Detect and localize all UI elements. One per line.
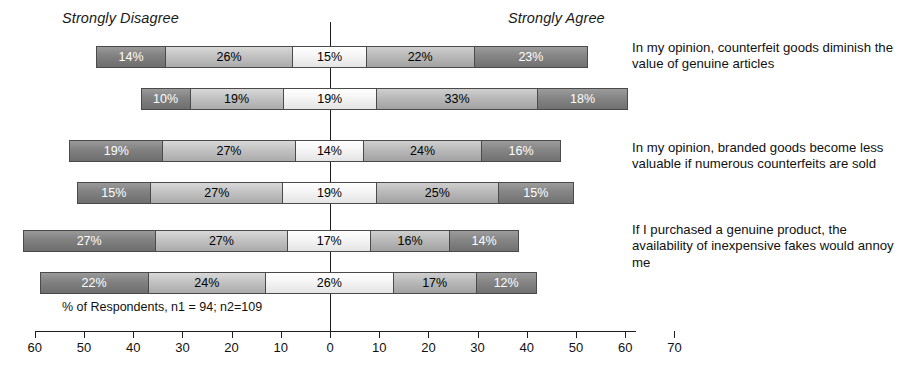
x-axis-tick-label: 20 — [224, 340, 238, 355]
x-axis-tick — [674, 331, 675, 338]
plot-area: 14%26%15%22%23%10%19%19%33%18%19%27%14%2… — [0, 0, 650, 379]
stacked-bar: 15%27%19%25%15% — [77, 182, 574, 204]
bar-segment-value: 14% — [472, 235, 497, 248]
bar-segment: 19% — [284, 89, 377, 109]
x-axis-tick — [428, 331, 429, 338]
bar-segment-value: 18% — [570, 93, 595, 106]
bar-segment: 24% — [149, 273, 267, 293]
stacked-bar: 14%26%15%22%23% — [96, 46, 588, 68]
bar-segment: 10% — [142, 89, 191, 109]
stacked-bar: 10%19%19%33%18% — [141, 88, 628, 110]
bar-segment: 16% — [371, 231, 449, 251]
bar-segment: 27% — [163, 141, 295, 161]
bar-segment-value: 26% — [217, 51, 242, 64]
statement-label-0: In my opinion, counterfeit goods diminis… — [632, 40, 894, 73]
bar-segment: 19% — [191, 89, 284, 109]
x-axis-line — [35, 331, 636, 332]
bar-segment: 33% — [377, 89, 539, 109]
bar-segment-value: 27% — [216, 145, 241, 158]
bar-segment-value: 17% — [422, 277, 447, 290]
bar-segment: 22% — [367, 47, 475, 67]
x-axis-tick — [478, 331, 479, 338]
bar-segment-value: 33% — [445, 93, 470, 106]
statement-label-1: In my opinion, branded goods become less… — [632, 140, 894, 173]
x-axis-tick — [379, 331, 380, 338]
x-axis-tick-label: 60 — [28, 340, 42, 355]
x-axis-tick-label: 0 — [326, 340, 333, 355]
bar-segment-value: 24% — [194, 277, 219, 290]
x-axis-tick-label: 10 — [372, 340, 386, 355]
x-axis-tick — [527, 331, 528, 338]
bar-segment-value: 14% — [317, 145, 342, 158]
bar-segment-value: 16% — [398, 235, 423, 248]
bar-segment-value: 14% — [119, 51, 144, 64]
x-axis-tick-label: 30 — [175, 340, 189, 355]
stacked-bar: 27%27%17%16%14% — [23, 230, 520, 252]
bar-segment: 26% — [266, 273, 393, 293]
bar-segment-value: 19% — [317, 93, 342, 106]
stacked-bar: 22%24%26%17%12% — [40, 272, 537, 294]
bar-segment-value: 27% — [209, 235, 234, 248]
statement-label-2: If I purchased a genuine product, the av… — [632, 222, 894, 271]
bar-segment-value: 19% — [104, 145, 129, 158]
bar-segment: 14% — [97, 47, 166, 67]
bar-segment-value: 25% — [425, 187, 450, 200]
bar-segment-value: 15% — [317, 51, 342, 64]
bar-segment: 23% — [475, 47, 588, 67]
x-axis-tick — [330, 331, 331, 338]
bar-segment-value: 15% — [101, 187, 126, 200]
x-axis-tick — [576, 331, 577, 338]
bar-segment: 17% — [394, 273, 477, 293]
x-axis-tick-label: 40 — [520, 340, 534, 355]
bar-segment: 27% — [24, 231, 156, 251]
x-axis-tick-label: 70 — [667, 340, 681, 355]
bar-segment: 15% — [78, 183, 152, 203]
x-axis-tick-label: 50 — [569, 340, 583, 355]
bar-segment-value: 10% — [153, 93, 178, 106]
bar-segment: 14% — [296, 141, 365, 161]
bar-segment: 15% — [499, 183, 573, 203]
bar-segment-value: 27% — [204, 187, 229, 200]
x-axis-tick-label: 20 — [421, 340, 435, 355]
bar-segment: 16% — [482, 141, 560, 161]
diverging-stacked-bar-chart: Strongly Disagree Strongly Agree 14%26%1… — [0, 0, 903, 379]
x-axis-tick — [625, 331, 626, 338]
bar-segment: 24% — [364, 141, 482, 161]
bar-segment: 19% — [70, 141, 163, 161]
x-axis-tick — [182, 331, 183, 338]
bar-segment: 15% — [293, 47, 367, 67]
bar-segment: 26% — [166, 47, 293, 67]
x-axis-tick-label: 50 — [77, 340, 91, 355]
x-axis-tick — [84, 331, 85, 338]
x-axis-tick-label: 30 — [470, 340, 484, 355]
bar-segment-value: 23% — [518, 51, 543, 64]
bar-segment-value: 27% — [77, 235, 102, 248]
bar-segment: 19% — [283, 183, 376, 203]
x-axis: 605040302010010203040506070 — [0, 331, 650, 379]
bar-segment: 17% — [288, 231, 371, 251]
x-axis-tick — [281, 331, 282, 338]
bar-segment-value: 22% — [408, 51, 433, 64]
bar-segment-value: 12% — [494, 277, 519, 290]
bar-segment-value: 26% — [317, 277, 342, 290]
bar-segment-value: 15% — [523, 187, 548, 200]
bar-segment-value: 17% — [317, 235, 342, 248]
bar-segment: 27% — [151, 183, 283, 203]
bar-segment-value: 16% — [508, 145, 533, 158]
stacked-bar: 19%27%14%24%16% — [69, 140, 561, 162]
bar-segment-value: 19% — [317, 187, 342, 200]
x-axis-tick — [35, 331, 36, 338]
bar-segment-value: 19% — [224, 93, 249, 106]
x-axis-tick-label: 40 — [126, 340, 140, 355]
bar-segment: 25% — [377, 183, 500, 203]
chart-footnote: % of Respondents, n1 = 94; n2=109 — [62, 300, 262, 314]
bar-segment: 22% — [41, 273, 149, 293]
x-axis-tick — [133, 331, 134, 338]
bar-segment: 18% — [538, 89, 626, 109]
x-axis-tick — [232, 331, 233, 338]
bar-segment: 14% — [450, 231, 519, 251]
x-axis-tick-label: 60 — [618, 340, 632, 355]
bar-segment: 27% — [156, 231, 288, 251]
bar-segment-value: 24% — [410, 145, 435, 158]
bar-segment: 12% — [477, 273, 536, 293]
